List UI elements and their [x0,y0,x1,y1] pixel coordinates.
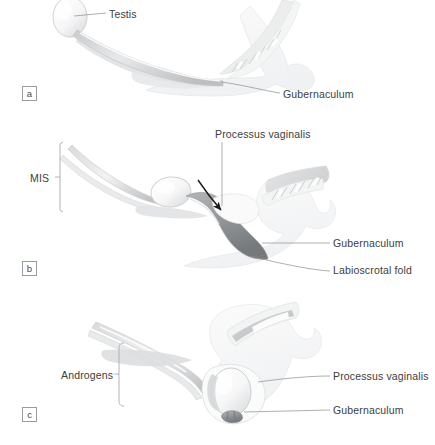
label-gubernaculum-panel-a: Gubernaculum [283,88,354,100]
label-labioscrotal-fold: Labioscrotal fold [333,264,412,276]
testis-c-highlight [215,373,233,395]
label-androgens: Androgens [61,369,113,381]
panel-c-artwork [88,302,330,424]
label-gubernaculum-panel-b: Gubernaculum [333,237,404,249]
panel-letter-a: a [22,86,37,101]
testis-b-highlight [157,182,175,195]
panel-b-artwork [55,142,336,271]
label-mis: MIS [30,172,49,184]
mis-bracket [55,142,63,212]
panel-letter-c: c [22,407,37,422]
label-testis: Testis [109,8,137,20]
panel-letter-b: b [22,261,37,276]
label-processus-vaginalis-panel-c: Processus vaginalis [333,370,429,382]
gubernaculum-c [222,411,243,423]
panel-a-artwork [53,0,314,96]
epididymis-fold-b [135,206,208,219]
vas-fold-c [101,349,192,366]
label-gubernaculum-panel-c: Gubernaculum [333,404,404,416]
spermatic-vessels-b2 [60,155,158,211]
testis-a-highlight [56,2,72,20]
figure-testicular-descent: a b c Testis Gubernaculum Processus vagi… [0,0,435,445]
label-processus-vaginalis-panel-b: Processus vaginalis [215,128,311,140]
